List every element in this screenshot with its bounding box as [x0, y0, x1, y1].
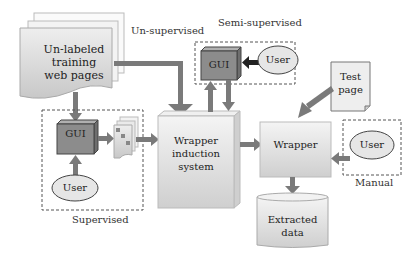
wrapper-label: Wrapper [260, 138, 331, 151]
extracted-data-label: Extracted data [257, 213, 328, 239]
arrow-pages-to-gui [69, 92, 82, 122]
manual-user-label: User [350, 138, 394, 151]
wis-line3: system [158, 160, 234, 173]
semi-user-label: User [258, 53, 298, 66]
wis-label: Wrapper induction system [158, 134, 234, 173]
semi-gui-label: GUI [201, 58, 237, 71]
supervised-label: Supervised [72, 214, 129, 225]
arrow-labeled-to-wis [136, 133, 159, 146]
arrow-test-page-to-wrapper [298, 86, 334, 118]
unsupervised-label: Un-supervised [131, 25, 204, 36]
test-page-label: Test page [331, 70, 370, 96]
semi-supervised-label: Semi-supervised [218, 17, 302, 28]
unlabeled-pages-label: Un-labeled training web pages [34, 43, 114, 82]
test-page-line2: page [331, 83, 370, 96]
wis-line2: induction [158, 147, 234, 160]
arrow-semi-user-to-gui [242, 56, 259, 69]
arrow-wrapper-to-extracted [285, 177, 300, 194]
labeled-pages-icon [114, 117, 138, 158]
arrow-gui-to-labeled [98, 132, 114, 145]
manual-label: Manual [355, 177, 393, 188]
arrow-wis-to-wrapper [240, 138, 262, 151]
arrow-manual-user-to-wrapper [331, 152, 350, 165]
extracted-line2: data [257, 226, 328, 239]
wis-line1: Wrapper [158, 134, 234, 147]
unlabeled-line1: Un-labeled [34, 43, 114, 56]
unlabeled-line3: web pages [34, 69, 114, 82]
arrow-unsupervised [114, 61, 193, 116]
unlabeled-line2: training [34, 56, 114, 69]
supervised-user-label: User [52, 181, 98, 194]
arrow-wis-to-semi-gui [204, 81, 217, 112]
extracted-line1: Extracted [257, 213, 328, 226]
test-page-line1: Test [331, 70, 370, 83]
supervised-gui-label: GUI [57, 127, 94, 140]
arrow-semi-gui-to-wis [222, 80, 235, 111]
